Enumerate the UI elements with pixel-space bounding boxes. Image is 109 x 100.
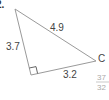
right-triangle <box>15 9 96 75</box>
fraction-denominator: 32 <box>97 83 106 92</box>
left-leg-label: 3.7 <box>6 41 20 52</box>
hypotenuse-label: 4.9 <box>50 22 64 33</box>
vertex-c-label: C <box>98 53 105 64</box>
fraction-numerator: 37 <box>97 73 106 82</box>
triangle-diagram: 2. 4.9 3.7 3.2 C 37 32 <box>0 0 109 100</box>
bottom-leg-label: 3.2 <box>63 69 77 80</box>
problem-number: 2. <box>0 0 5 10</box>
